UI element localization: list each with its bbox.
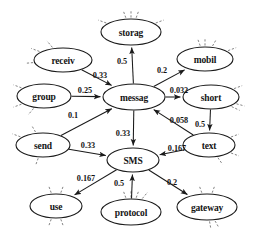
node-label-mobil: mobil <box>194 55 217 65</box>
node-label-receiv: receiv <box>51 56 75 66</box>
edge-protocol-to-SMS <box>132 175 133 199</box>
node-group[interactable]: group <box>17 84 71 108</box>
diagram-canvas: storagreceivmobilgroupmessagshortsendtex… <box>0 0 255 250</box>
edge-messag-to-SMS <box>133 111 134 146</box>
edge-send-to-SMS <box>69 149 106 155</box>
edge-weight-messag-storag: 0.5 <box>117 57 127 66</box>
node-label-storag: storag <box>119 28 144 38</box>
node-messag[interactable]: messag <box>103 84 165 110</box>
edge-weight-receiv-messag: 0.33 <box>93 71 107 80</box>
node-label-short: short <box>201 93 222 103</box>
edge-weight-text-SMS: 0.167 <box>168 144 186 153</box>
node-SMS[interactable]: SMS <box>107 148 159 172</box>
edge-weight-messag-mobil: 0.2 <box>157 66 167 75</box>
edge-weight-protocol-SMS: 0.5 <box>114 179 124 188</box>
node-layer: storagreceivmobilgroupmessagshortsendtex… <box>16 19 239 225</box>
node-mobil[interactable]: mobil <box>177 47 233 71</box>
edge-weight-messag-SMS: 0.33 <box>116 129 130 138</box>
node-use[interactable]: use <box>30 194 82 218</box>
edge-weight-send-messag: 0.1 <box>68 111 78 120</box>
node-gateway[interactable]: gateway <box>177 194 237 220</box>
node-label-use: use <box>50 202 63 212</box>
edge-weight-text-messag: 0.058 <box>170 116 188 125</box>
edge-weight-send-SMS: 0.33 <box>81 141 95 150</box>
node-label-group: group <box>32 92 55 102</box>
node-text[interactable]: text <box>183 133 235 157</box>
graph-svg: storagreceivmobilgroupmessagshortsendtex… <box>0 0 255 250</box>
node-storag[interactable]: storag <box>101 19 161 45</box>
edge-weight-group-messag: 0.25 <box>78 86 92 95</box>
edge-weight-messag-short: 0.032 <box>170 86 188 95</box>
edge-weight-SMS-gateway: 0.2 <box>167 178 177 187</box>
node-label-SMS: SMS <box>123 156 142 166</box>
edge-messag-to-storag <box>132 48 134 84</box>
node-receiv[interactable]: receiv <box>34 48 92 72</box>
edge-short-to-text <box>210 110 211 131</box>
node-label-messag: messag <box>120 93 149 103</box>
node-label-text: text <box>202 141 218 151</box>
edge-weight-short-text: 0.5 <box>195 120 205 129</box>
node-label-protocol: protocol <box>115 208 148 218</box>
node-protocol[interactable]: protocol <box>101 199 161 225</box>
node-label-send: send <box>34 141 53 151</box>
node-label-gateway: gateway <box>191 203 224 213</box>
node-send[interactable]: send <box>16 133 70 157</box>
node-short[interactable]: short <box>183 85 239 109</box>
edge-weight-SMS-use: 0.167 <box>77 174 95 183</box>
